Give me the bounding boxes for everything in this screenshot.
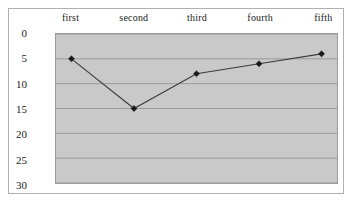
category-label-first: first [62, 12, 79, 23]
category-axis: first second third fourth fifth [9, 9, 343, 33]
series-line-group [68, 51, 324, 112]
value-axis: 0 5 10 15 20 25 30 [9, 9, 55, 193]
data-point-fourth [256, 61, 262, 67]
value-tick-10: 10 [16, 78, 27, 90]
value-tick-20: 20 [16, 128, 27, 140]
chart-figure: first second third fourth fifth 0 5 10 1… [8, 8, 344, 194]
data-point-fifth [318, 51, 324, 57]
plot-svg [56, 34, 337, 183]
category-label-fourth: fourth [247, 12, 273, 23]
category-label-third: third [187, 12, 207, 23]
value-tick-15: 15 [16, 103, 27, 115]
gridlines [56, 34, 337, 183]
series-line-0 [71, 54, 321, 109]
value-tick-0: 0 [22, 27, 28, 39]
category-label-second: second [119, 12, 148, 23]
value-tick-5: 5 [22, 52, 28, 64]
value-tick-30: 30 [16, 179, 27, 191]
data-point-third [193, 71, 199, 77]
category-label-fifth: fifth [314, 12, 332, 23]
value-tick-25: 25 [16, 154, 27, 166]
plot-area [55, 33, 338, 184]
